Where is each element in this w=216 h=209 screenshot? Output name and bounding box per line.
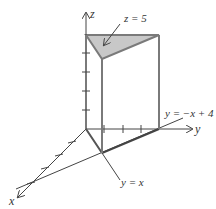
line-y-eq-x-label: y = x (120, 176, 144, 188)
y-axis-label: y (194, 122, 201, 136)
top-face-z5 (86, 35, 159, 59)
z5-label: z = 5 (123, 12, 147, 24)
x-axis (18, 129, 86, 197)
line-neg-x-plus-4-label: y = −x + 4 (164, 107, 214, 119)
diagram-canvas: z y x z = 5 y = −x + 4 y = x (0, 0, 216, 209)
x-axis-ticks (27, 141, 76, 184)
x-axis-label: x (8, 194, 15, 208)
prism-diagram: z y x z = 5 y = −x + 4 y = x (0, 0, 216, 209)
base-edge-origin-a (86, 129, 102, 153)
z-axis-label: z (89, 7, 95, 21)
base-edge-a-b (102, 129, 159, 153)
